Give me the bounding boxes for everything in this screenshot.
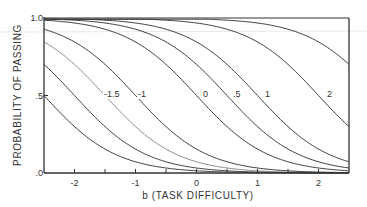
curve-label: .5: [233, 89, 241, 99]
curves-group: [44, 19, 349, 173]
curve-theta-1: [44, 19, 349, 162]
tick-labels-group: -2-1012.0.51.0: [30, 13, 321, 188]
y-axis-label: PROBABILITY OF PASSING: [12, 24, 23, 166]
x-tick-label: 2: [316, 178, 321, 188]
curve-theta-neg1p5: [44, 42, 349, 173]
x-tick-label: 1: [255, 178, 260, 188]
curve-theta-neg1: [44, 29, 349, 172]
curve-labels-group: -1.5-10.512: [103, 89, 333, 99]
curve-label: -1.5: [104, 89, 120, 99]
x-axis-label: b (TASK DIFFICULTY): [142, 190, 254, 201]
x-tick-label: 0: [194, 178, 199, 188]
y-tick-label: .5: [35, 91, 43, 101]
y-tick-label: .0: [35, 168, 43, 178]
curve-theta-0: [44, 20, 349, 171]
curve-theta-2: [44, 19, 349, 126]
curve-label: 0: [203, 89, 208, 99]
y-tick-label: 1.0: [30, 13, 43, 23]
x-tick-label: -1: [131, 178, 139, 188]
chart-canvas: -2-1012.0.51.0 -1.5-10.512: [0, 0, 367, 207]
curve-label: 1: [265, 89, 270, 99]
curve-label: -1: [138, 89, 146, 99]
curve-label: 2: [327, 89, 332, 99]
x-tick-label: -2: [70, 178, 78, 188]
scan-artifact-line: [0, 31, 367, 32]
